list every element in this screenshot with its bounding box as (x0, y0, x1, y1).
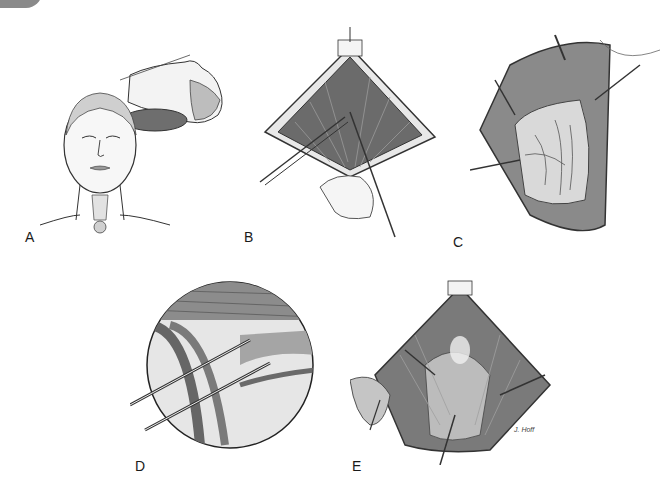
thyroid-mobilization-drawing (350, 275, 555, 465)
panel-label-c: C (453, 234, 463, 250)
panel-a-illustration (20, 20, 235, 235)
panel-c-illustration (470, 25, 660, 250)
thyroid-exposure-drawing (470, 25, 660, 250)
midline-incision-drawing (250, 22, 450, 247)
corner-tab (0, 0, 42, 8)
patient-position-drawing (20, 20, 235, 235)
panel-e-illustration (350, 275, 555, 465)
panel-d-illustration (130, 275, 315, 450)
panel-b-illustration (250, 22, 450, 247)
panel-label-d: D (135, 458, 145, 474)
panel-label-a: A (25, 229, 34, 245)
panel-label-b: B (244, 229, 253, 245)
illustrator-signature: J. Hoff (514, 426, 534, 433)
panel-label-e: E (352, 458, 361, 474)
vessel-clamp-inset-drawing (130, 275, 315, 450)
